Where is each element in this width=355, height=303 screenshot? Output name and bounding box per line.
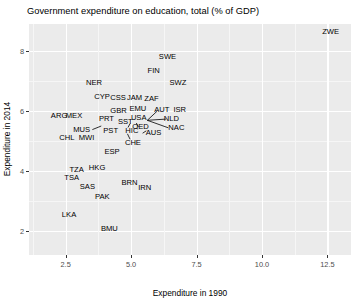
gridline: [29, 81, 351, 82]
point-label: CSS: [110, 95, 126, 103]
x-tick-mark: [327, 255, 328, 258]
point-label: ZWE: [322, 29, 339, 37]
point-label: HKG: [89, 164, 105, 172]
y-tick-label: 8: [20, 47, 24, 56]
point-label: BMU: [101, 225, 118, 233]
y-tick-mark: [26, 231, 29, 232]
point-label: NAC: [168, 124, 184, 132]
x-tick-label: 10.0: [255, 260, 269, 269]
point-label: BRN: [121, 179, 137, 187]
chart-figure: Government expenditure on education, tot…: [0, 0, 355, 303]
point-label: PST: [103, 127, 118, 135]
x-tick-mark: [197, 255, 198, 258]
point-label: CHE: [125, 139, 141, 147]
point-label: SAS: [80, 183, 95, 191]
x-tick-label: 7.5: [191, 260, 201, 269]
point-label: SST: [118, 118, 133, 126]
y-tick-mark: [26, 171, 29, 172]
gridline: [29, 141, 351, 142]
point-label: HIC: [125, 128, 138, 136]
x-axis-title: Expenditure in 1990: [153, 288, 228, 298]
gridline: [29, 231, 351, 232]
point-label: FIN: [147, 67, 159, 75]
point-label: USA: [131, 114, 147, 122]
point-label: TSA: [64, 174, 79, 182]
point-label: JAM: [127, 95, 142, 103]
gridline: [29, 51, 351, 52]
point-label: ZAF: [144, 95, 158, 103]
gridline: [29, 201, 351, 202]
point-label: IRN: [138, 185, 151, 193]
chart-title: Government expenditure on education, tot…: [27, 6, 259, 16]
x-tick-label: 5.0: [126, 260, 136, 269]
point-label: SWZ: [170, 80, 187, 88]
point-label: LKA: [62, 211, 76, 219]
leader-line: [92, 126, 101, 130]
point-label: MWI: [79, 134, 95, 142]
x-tick-label: 2.5: [61, 260, 71, 269]
gridline: [229, 24, 230, 255]
leader-lines: [29, 24, 351, 255]
y-tick-label: 6: [20, 107, 24, 116]
point-label: PRT: [99, 115, 114, 123]
gridline: [327, 24, 328, 255]
y-tick-mark: [26, 51, 29, 52]
y-tick-label: 4: [20, 167, 24, 176]
point-label: AUS: [146, 129, 162, 137]
point-label: CHL: [59, 134, 74, 142]
gridline: [98, 24, 99, 255]
point-label: PAK: [95, 194, 110, 202]
x-tick-label: 12.5: [320, 260, 334, 269]
y-tick-label: 2: [20, 227, 24, 236]
gridline: [262, 24, 263, 255]
point-label: NER: [86, 79, 102, 87]
y-axis-title: Expenditure in 2014: [2, 102, 12, 177]
point-label: ISR: [173, 106, 186, 114]
point-label: CYP: [94, 93, 110, 101]
plot-panel: ZWESWEFINNERSWZCYPCSSJAMZAFEMUAUTISRGBRA…: [29, 24, 351, 255]
x-tick-mark: [131, 255, 132, 258]
point-label: AUT: [154, 106, 169, 114]
gridline: [33, 24, 34, 255]
x-tick-mark: [262, 255, 263, 258]
point-label: SWE: [159, 53, 176, 61]
x-tick-mark: [66, 255, 67, 258]
point-label: ESP: [104, 149, 119, 157]
gridline: [197, 24, 198, 255]
gridline: [295, 24, 296, 255]
y-tick-mark: [26, 111, 29, 112]
point-label: MEX: [66, 112, 82, 120]
